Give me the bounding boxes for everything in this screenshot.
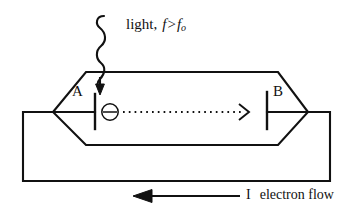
left-arrow-icon: [133, 190, 152, 203]
current-direction-label: Ielectron flow: [246, 188, 334, 202]
threshold-subscript: o: [181, 22, 186, 33]
electrode-a-label: A: [72, 84, 83, 99]
phototube-envelope: [53, 72, 308, 145]
greater-than-symbol: >: [166, 16, 176, 32]
light-frequency-label: light,f>fo: [126, 17, 186, 33]
current-symbol: I: [246, 187, 260, 202]
photoelectric-effect-diagram: light,f>fo A B Ielectron flow: [0, 0, 362, 217]
electron-flow-text: electron flow: [260, 187, 334, 202]
circuit-wire: [23, 112, 330, 181]
down-arrow-icon: [96, 84, 105, 95]
electrode-b-label: B: [273, 84, 283, 99]
light-word: light,: [126, 16, 157, 32]
